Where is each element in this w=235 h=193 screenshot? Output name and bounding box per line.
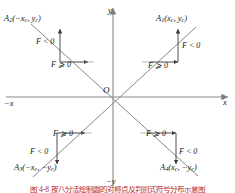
condition-label-q4-nonnegative: F ⩾ 0: [146, 130, 166, 138]
origin-label: O: [103, 86, 110, 95]
point-label-a4: A4(xc, −yc): [160, 163, 197, 172]
annotation-arrows-q1: [142, 29, 178, 62]
point-a3-text: A3(−xc, −yc): [14, 162, 57, 172]
condition-label-q2-nonnegative: F ⩾ 0: [51, 61, 71, 69]
point-label-a3: A3(−xc, −yc): [14, 163, 57, 172]
axis-label-negative-y: −y: [106, 177, 116, 186]
point-label-a2: A2(−xc, yc): [4, 14, 41, 23]
figure-caption: 图 4-8 按八分法绘制圆的对称点及判别式符号分布示意图: [0, 186, 235, 193]
condition-label-q4-negative: F < 0: [179, 148, 197, 156]
point-a2-text: A2(−xc, yc): [4, 13, 41, 23]
point-a4-text: A4(xc, −yc): [160, 162, 197, 172]
condition-label-q3-negative: F < 0: [30, 148, 48, 156]
condition-label-q3-nonnegative: F ⩾ 0: [53, 130, 73, 138]
condition-label-q1-negative: F < 0: [182, 42, 200, 50]
symmetry-diagram: A2(−xc, yc) A1(xc, yc) A3(−xc, −yc) A4(x…: [0, 0, 235, 193]
point-label-a1: A1(xc, yc): [156, 14, 187, 23]
axis-label-positive-x: x: [223, 98, 227, 107]
axis-label-negative-x: −x: [4, 99, 14, 108]
condition-label-q2-negative: F < 0: [36, 38, 54, 46]
point-a1-text: A1(xc, yc): [156, 13, 187, 23]
condition-label-q1-nonnegative: F ⩾ 0: [148, 62, 168, 70]
annotation-arrows-q2: [60, 29, 94, 62]
diagonal-line-negative: [31, 24, 198, 176]
axis-label-positive-y: y: [108, 6, 112, 15]
